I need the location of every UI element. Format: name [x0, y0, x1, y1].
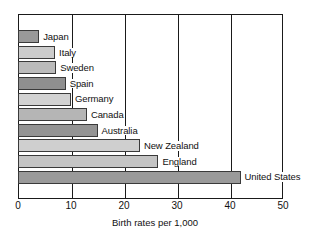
bar-category-label: Spain: [69, 79, 95, 89]
bar-category-label: New Zealand: [143, 141, 200, 151]
bar-row: Sweden: [18, 60, 95, 76]
bar-category-label: United States: [244, 172, 302, 182]
bar-row: Spain: [18, 76, 95, 92]
bar: [18, 171, 241, 184]
bar: [18, 124, 98, 137]
bar: [18, 93, 71, 106]
bar: [18, 46, 55, 59]
bar-row: Italy: [18, 45, 77, 61]
x-tick-label: 40: [224, 201, 235, 211]
bar: [18, 77, 66, 90]
bar-row: Canada: [18, 107, 125, 123]
bar: [18, 139, 140, 152]
bar-category-label: Germany: [74, 94, 114, 104]
x-tick-label: 30: [171, 201, 182, 211]
bars-layer: JapanItalySwedenSpainGermanyCanadaAustra…: [18, 14, 283, 199]
bar-row: New Zealand: [18, 138, 200, 154]
birth-rates-bar-chart: JapanItalySwedenSpainGermanyCanadaAustra…: [0, 0, 310, 233]
x-axis-tick-labels: 01020304050: [0, 201, 310, 217]
bar-category-label: England: [161, 157, 197, 167]
bar: [18, 108, 87, 121]
bar: [18, 155, 158, 168]
bar-row: Germany: [18, 91, 114, 107]
bar: [18, 61, 56, 74]
x-tick-label: 10: [65, 201, 76, 211]
x-tick-label: 20: [118, 201, 129, 211]
bar-row: Australia: [18, 123, 139, 139]
bar-row: United States: [18, 169, 301, 185]
bar-category-label: Italy: [58, 48, 77, 58]
bar-row: England: [18, 154, 198, 170]
bar-category-label: Sweden: [59, 63, 95, 73]
bar-category-label: Australia: [101, 126, 139, 136]
bar-category-label: Japan: [42, 32, 69, 42]
x-tick-label: 50: [277, 201, 288, 211]
bar: [18, 30, 39, 43]
x-axis-title: Birth rates per 1,000: [0, 218, 310, 228]
bar-category-label: Canada: [90, 110, 125, 120]
bar-row: Japan: [18, 29, 70, 45]
x-tick-label: 0: [15, 201, 21, 211]
